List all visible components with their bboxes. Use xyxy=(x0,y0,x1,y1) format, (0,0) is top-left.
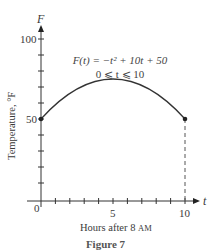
curve-F xyxy=(41,79,185,119)
y-axis-arrow-icon xyxy=(38,25,44,32)
x-axis-title-am: AM xyxy=(138,223,152,233)
y-tick-label-50: 50 xyxy=(26,114,37,125)
x-tick-label-0: 0 xyxy=(34,203,40,214)
equation-line-1: F(t) = −t² + 10t + 50 xyxy=(62,53,178,67)
endpoint-dot-left xyxy=(39,117,44,122)
x-axis-arrow-icon xyxy=(193,198,200,204)
y-axis-title: Temperature, °F xyxy=(6,92,17,160)
figure-caption: Figure 7 xyxy=(0,238,211,250)
x-axis-title: Hours after 8 AM xyxy=(80,223,152,234)
equation-line-2: 0 ⩽ t ⩽ 10 xyxy=(62,67,178,81)
x-tick-label-10: 10 xyxy=(179,208,190,219)
x-tick-label-5: 5 xyxy=(110,208,116,219)
endpoint-dot-right xyxy=(183,117,188,122)
y-axis-symbol: F xyxy=(37,13,44,25)
y-tick-label-100: 100 xyxy=(20,34,37,45)
x-axis-symbol: t xyxy=(203,195,206,207)
equation-annotation: F(t) = −t² + 10t + 50 0 ⩽ t ⩽ 10 xyxy=(62,53,178,81)
x-axis-title-main: Hours after 8 xyxy=(80,222,138,233)
